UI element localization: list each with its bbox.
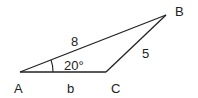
side-ab [20,15,166,72]
angle-a-label: 20° [64,58,84,73]
side-ac-label: b [67,81,74,96]
vertex-c-label: C [111,81,120,96]
triangle-diagram: A B C 8 5 b 20° [0,0,198,98]
side-bc-label: 5 [142,46,149,61]
side-ab-label: 8 [71,34,78,49]
vertex-a-label: A [14,81,23,96]
vertex-b-label: B [175,4,184,19]
side-bc [106,15,166,72]
angle-a-arc [51,60,53,72]
